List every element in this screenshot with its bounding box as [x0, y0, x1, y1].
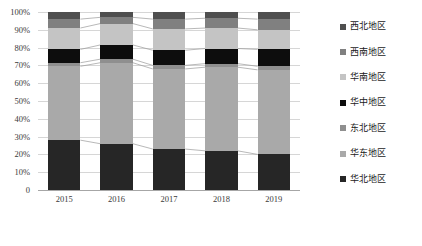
- bar-segment[interactable]: [258, 154, 290, 190]
- legend-item-label: 西北地区: [350, 22, 386, 31]
- y-axis-tick-label: 0: [26, 186, 30, 195]
- legend-item-label: 华南地区: [350, 73, 386, 82]
- bar-2016[interactable]: [100, 12, 132, 190]
- stacked-bar-chart: 010%20%30%40%50%60%70%80%90%100% 2015201…: [0, 0, 422, 246]
- bar-segment[interactable]: [153, 65, 185, 69]
- bar-segment[interactable]: [100, 59, 132, 63]
- plot-area: [38, 12, 300, 190]
- bar-segment[interactable]: [48, 140, 80, 190]
- legend-item-label: 华东地区: [350, 149, 386, 158]
- bar-segment[interactable]: [48, 12, 80, 19]
- bar-segment[interactable]: [205, 12, 237, 18]
- bar-segment[interactable]: [100, 17, 132, 23]
- legend-item-label: 西南地区: [350, 48, 386, 57]
- bar-segment[interactable]: [100, 24, 132, 45]
- legend-item[interactable]: 华北地区: [340, 166, 420, 191]
- bar-segment[interactable]: [48, 19, 80, 28]
- bar-segment[interactable]: [153, 50, 185, 65]
- legend-swatch-icon: [340, 24, 346, 30]
- bar-segment[interactable]: [153, 19, 185, 29]
- bar-segment[interactable]: [258, 19, 290, 30]
- legend-item-label: 华中地区: [350, 98, 386, 107]
- bar-segment[interactable]: [48, 28, 80, 49]
- bar-segment[interactable]: [205, 151, 237, 190]
- bar-segment[interactable]: [258, 12, 290, 19]
- bar-segment[interactable]: [153, 29, 185, 50]
- y-axis: 010%20%30%40%50%60%70%80%90%100%: [0, 12, 34, 190]
- bar-segment[interactable]: [205, 28, 237, 48]
- legend-swatch-icon: [340, 49, 346, 55]
- legend-swatch-icon: [340, 151, 346, 157]
- bar-segment[interactable]: [153, 69, 185, 149]
- bar-segment[interactable]: [48, 63, 80, 67]
- y-axis-tick-label: 90%: [14, 26, 30, 35]
- legend-swatch-icon: [340, 100, 346, 106]
- legend-item-label: 东北地区: [350, 124, 386, 133]
- y-axis-tick-label: 20%: [14, 150, 30, 159]
- bar-segment[interactable]: [205, 49, 237, 64]
- bar-segment[interactable]: [100, 144, 132, 190]
- bar-2017[interactable]: [153, 12, 185, 190]
- bar-segment[interactable]: [100, 45, 132, 59]
- x-axis-tick-label: 2019: [265, 194, 282, 204]
- bar-segment[interactable]: [205, 18, 237, 28]
- bars-layer: [38, 12, 300, 190]
- bar-segment[interactable]: [258, 49, 290, 66]
- y-axis-tick-label: 30%: [14, 132, 30, 141]
- x-axis: 20152016201720182019: [38, 194, 300, 210]
- x-axis-tick-label: 2018: [213, 194, 230, 204]
- x-axis-tick-label: 2017: [161, 194, 178, 204]
- bar-segment[interactable]: [153, 12, 185, 19]
- chart-legend: 西北地区西南地区华南地区华中地区东北地区华东地区华北地区: [340, 14, 420, 192]
- legend-swatch-icon: [340, 74, 346, 80]
- bar-segment[interactable]: [48, 49, 80, 62]
- legend-item[interactable]: 华南地区: [340, 65, 420, 90]
- y-axis-tick-label: 50%: [14, 97, 30, 106]
- legend-item[interactable]: 西南地区: [340, 39, 420, 64]
- legend-item[interactable]: 西北地区: [340, 14, 420, 39]
- bar-segment[interactable]: [48, 66, 80, 140]
- bar-segment[interactable]: [100, 63, 132, 144]
- y-axis-tick-label: 70%: [14, 61, 30, 70]
- legend-item[interactable]: 华东地区: [340, 141, 420, 166]
- y-axis-tick-label: 40%: [14, 115, 30, 124]
- bar-2018[interactable]: [205, 12, 237, 190]
- y-axis-tick-label: 60%: [14, 79, 30, 88]
- x-axis-tick-label: 2016: [108, 194, 125, 204]
- legend-swatch-icon: [340, 125, 346, 131]
- y-axis-tick-label: 100%: [10, 8, 30, 17]
- legend-item-label: 华北地区: [350, 175, 386, 184]
- bar-2015[interactable]: [48, 12, 80, 190]
- y-axis-tick-label: 10%: [14, 168, 30, 177]
- x-axis-tick-label: 2015: [56, 194, 73, 204]
- bar-segment[interactable]: [258, 30, 290, 50]
- bar-segment[interactable]: [205, 67, 237, 151]
- legend-item[interactable]: 华中地区: [340, 90, 420, 115]
- bar-segment[interactable]: [258, 70, 290, 155]
- bar-segment[interactable]: [205, 64, 237, 68]
- bar-segment[interactable]: [258, 66, 290, 70]
- gridline-0: [38, 190, 300, 191]
- legend-item[interactable]: 东北地区: [340, 116, 420, 141]
- bar-2019[interactable]: [258, 12, 290, 190]
- bar-segment[interactable]: [100, 12, 132, 17]
- y-axis-tick-label: 80%: [14, 43, 30, 52]
- bar-segment[interactable]: [153, 149, 185, 190]
- legend-swatch-icon: [340, 176, 346, 182]
